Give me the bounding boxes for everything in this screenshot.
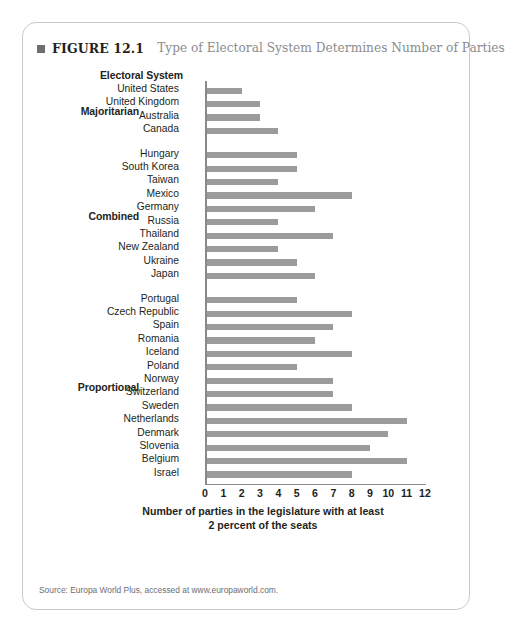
chart-row: Taiwan	[23, 176, 471, 187]
axis-heading: Electoral System	[23, 69, 183, 81]
bar	[205, 324, 333, 330]
bar-chart-plot: United StatesUnited KingdomAustraliaCana…	[23, 85, 471, 549]
bar-category-label: Belgium	[23, 453, 179, 464]
x-axis-title-line: Number of parties in the legislature wit…	[83, 504, 443, 518]
chart-row: Hungary	[23, 150, 471, 161]
chart-row: Portugal	[23, 295, 471, 306]
bar	[205, 364, 297, 370]
x-tick-label: 2	[232, 487, 252, 499]
chart-row: Poland	[23, 362, 471, 373]
bar-category-label: Mexico	[23, 188, 179, 199]
chart-row: Sweden	[23, 402, 471, 413]
bar-category-label: Israel	[23, 467, 179, 478]
bar	[205, 337, 315, 343]
bar	[205, 458, 407, 464]
bar-category-label: Japan	[23, 268, 179, 279]
bar-category-label: Denmark	[23, 427, 179, 438]
chart-row: Ukraine	[23, 257, 471, 268]
chart-row: United States	[23, 85, 471, 96]
x-axis-line	[205, 484, 426, 485]
chart-row: Iceland	[23, 348, 471, 359]
bar-category-label: Iceland	[23, 346, 179, 357]
bar-category-label: Ukraine	[23, 255, 179, 266]
bar-category-label: Spain	[23, 319, 179, 330]
bar	[205, 233, 333, 239]
chart-row: Slovenia	[23, 442, 471, 453]
figure-number: FIGURE 12.1	[52, 41, 144, 56]
x-tick-label: 5	[287, 487, 307, 499]
bar-category-label: Hungary	[23, 148, 179, 159]
bar-category-label: South Korea	[23, 161, 179, 172]
x-axis-title-line: 2 percent of the seats	[83, 518, 443, 532]
bar	[205, 114, 260, 120]
chart-row: Spain	[23, 321, 471, 332]
bar-category-label: Thailand	[23, 228, 179, 239]
bullet-square-icon	[37, 45, 45, 53]
group-label-combined: Combined	[23, 210, 139, 222]
chart-row: Mexico	[23, 190, 471, 201]
chart-row: Netherlands	[23, 415, 471, 426]
bar	[205, 273, 315, 279]
bar-category-label: Sweden	[23, 400, 179, 411]
figure-card: FIGURE 12.1 Type of Electoral System Det…	[22, 22, 470, 610]
chart-row: New Zealand	[23, 243, 471, 254]
bar	[205, 219, 278, 225]
bar-category-label: Poland	[23, 360, 179, 371]
bar-category-label: Portugal	[23, 293, 179, 304]
x-tick-label: 0	[195, 487, 215, 499]
bar-category-label: United States	[23, 83, 179, 94]
group-label-majoritarian: Majoritarian	[23, 105, 139, 117]
bar	[205, 179, 278, 185]
bar-category-label: New Zealand	[23, 241, 179, 252]
x-tick-label: 7	[323, 487, 343, 499]
x-tick-label: 1	[213, 487, 233, 499]
bar-category-label: Taiwan	[23, 174, 179, 185]
group-label-proportional: Proportional	[23, 381, 139, 393]
bar	[205, 431, 388, 437]
x-tick-label: 11	[397, 487, 417, 499]
bar	[205, 101, 260, 107]
bar	[205, 351, 352, 357]
bar	[205, 445, 370, 451]
x-tick-label: 8	[342, 487, 362, 499]
bar	[205, 259, 297, 265]
bar-category-label: Canada	[23, 123, 179, 134]
bar	[205, 88, 242, 94]
bar	[205, 418, 407, 424]
x-tick-label: 12	[415, 487, 435, 499]
bar-category-label: Netherlands	[23, 413, 179, 424]
source-note: Source: Europa World Plus, accessed at w…	[39, 585, 278, 595]
bar	[205, 471, 352, 477]
bar-category-label: Slovenia	[23, 440, 179, 451]
x-tick-label: 3	[250, 487, 270, 499]
chart-row: Thailand	[23, 230, 471, 241]
y-axis-line	[205, 81, 207, 484]
figure-header: FIGURE 12.1 Type of Electoral System Det…	[37, 37, 455, 59]
bar	[205, 404, 352, 410]
chart-area: Electoral System United StatesUnited Kin…	[23, 69, 471, 569]
bar	[205, 378, 333, 384]
x-tick-label: 4	[268, 487, 288, 499]
chart-row: South Korea	[23, 163, 471, 174]
chart-row: Denmark	[23, 429, 471, 440]
chart-row: Belgium	[23, 455, 471, 466]
chart-row: Canada	[23, 125, 471, 136]
bar	[205, 166, 297, 172]
chart-row: Czech Republic	[23, 308, 471, 319]
bar	[205, 128, 278, 134]
bar	[205, 391, 333, 397]
x-tick-label: 10	[378, 487, 398, 499]
chart-row: Japan	[23, 270, 471, 281]
bar	[205, 246, 278, 252]
bar	[205, 192, 352, 198]
x-tick-label: 9	[360, 487, 380, 499]
chart-row: Israel	[23, 469, 471, 480]
chart-row: Romania	[23, 335, 471, 346]
bar	[205, 311, 352, 317]
bar-category-label: Czech Republic	[23, 306, 179, 317]
bar-category-label: Romania	[23, 333, 179, 344]
bar	[205, 152, 297, 158]
bar	[205, 297, 297, 303]
x-axis-title: Number of parties in the legislature wit…	[83, 504, 443, 532]
x-tick-label: 6	[305, 487, 325, 499]
